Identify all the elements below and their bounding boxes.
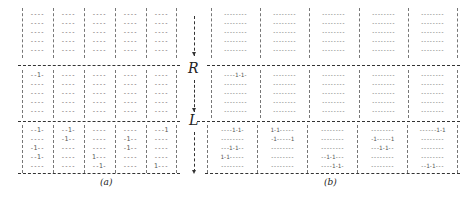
cell: ---- — [86, 71, 112, 80]
divider — [211, 8, 212, 58]
cell: ---- — [86, 144, 112, 153]
column: ---- ---- ---- ---- ---- — [86, 8, 112, 58]
section-separator — [197, 121, 460, 122]
column: -------- -------- -------- -------- ----… — [361, 8, 405, 58]
panel-b: -------- -------- -------- -------- ----… — [207, 8, 460, 168]
cell: --1- — [24, 126, 50, 135]
cell: -------- — [410, 89, 454, 98]
section-separator — [207, 65, 460, 66]
cell: ---1 — [148, 126, 174, 135]
column: --1- ---- -1-- --1- ---- — [24, 125, 50, 173]
section-separator — [18, 65, 180, 66]
cell: ---- — [148, 37, 174, 46]
divider — [115, 125, 116, 173]
cell: -1-- — [117, 135, 143, 144]
cell: -------- — [213, 107, 257, 116]
column: ---- ---- ---- ---- ---- — [117, 70, 143, 118]
panel-a-l-section: --1- ---- -1-- --1- ---- --1- -1-- ---- … — [20, 125, 178, 173]
panel-a-r-section: --1- ---- ---- ---- ---- ---- ---- ---- … — [20, 70, 178, 118]
cell: ---- — [117, 80, 143, 89]
cell: ---- — [24, 10, 50, 19]
cell: -------- — [410, 10, 454, 19]
cell: ---- — [24, 98, 50, 107]
cell: ---- — [117, 46, 143, 55]
cell: 1-1----- — [209, 153, 255, 162]
cell: --1-1--- — [309, 153, 355, 162]
cell: -------- — [311, 107, 355, 116]
cell: ---- — [55, 80, 81, 89]
cell: ---- — [86, 10, 112, 19]
cell: --1- — [24, 153, 50, 162]
column: -------- -------- -------- -------- ----… — [213, 8, 257, 58]
cell: -------- — [359, 162, 405, 171]
divider — [408, 70, 409, 118]
cell: ---- — [55, 46, 81, 55]
cell: -------- — [262, 89, 306, 98]
divider — [457, 125, 458, 173]
column: -------- -------- -------- --1-1--- ----… — [309, 125, 355, 173]
cell: -------- — [209, 162, 255, 171]
panel-b-l-section: ----1-1- -------- ---1-1-- 1-1----- ----… — [207, 125, 460, 173]
cell: -------- — [410, 98, 454, 107]
panel-a-caption: (a) — [100, 177, 112, 187]
divider — [146, 125, 147, 173]
arrow-down-icon — [192, 52, 196, 56]
cell: -------- — [311, 10, 355, 19]
cell: -------- — [361, 98, 405, 107]
divider — [407, 125, 408, 173]
cell: ---- — [148, 80, 174, 89]
divider — [357, 125, 358, 173]
cell: ---- — [55, 89, 81, 98]
cell: ---- — [86, 19, 112, 28]
cell: -------- — [409, 135, 455, 144]
cell: -------- — [213, 37, 257, 46]
column: -------- -------- -------- -------- ----… — [311, 70, 355, 118]
column: ---- ---- ---- ---- ---- — [117, 8, 143, 58]
column: ---- ---- ---- ---- ---- — [86, 70, 112, 118]
column: --1- ---- ---- ---- ---- — [24, 70, 50, 118]
divider — [115, 8, 116, 58]
panel-a-top-section: ---- ---- ---- ---- ---- ---- ---- ---- … — [20, 8, 178, 58]
cell: -------- — [311, 80, 355, 89]
section-separator — [18, 173, 180, 174]
column: -------- -------- -------- -------- ----… — [410, 8, 454, 58]
cell: -------- — [262, 71, 306, 80]
divider — [146, 70, 147, 118]
cell: -------- — [361, 107, 405, 116]
cell: ---- — [86, 89, 112, 98]
cell: -------- — [262, 10, 306, 19]
column: ---- -1-- -1-- ---- ---- — [117, 125, 143, 173]
label-l: L — [189, 112, 198, 128]
column: ---1 ---- ---- ---- 1--- — [148, 125, 174, 173]
divider — [309, 8, 310, 58]
cell: -1-- — [117, 144, 143, 153]
column: ---- ---- ---- ---- ---- — [148, 70, 174, 118]
cell: ---- — [117, 89, 143, 98]
label-r: R — [188, 60, 199, 76]
cell: -------- — [311, 19, 355, 28]
cell: -------- — [410, 107, 454, 116]
cell: ---- — [86, 80, 112, 89]
cell: -------- — [213, 19, 257, 28]
cell: -------- — [311, 98, 355, 107]
cell: -------- — [361, 19, 405, 28]
cell: ---- — [24, 162, 50, 171]
cell: -------- — [361, 37, 405, 46]
cell: ----1-1- — [213, 71, 257, 80]
cell: -------- — [409, 144, 455, 153]
cell: -------- — [262, 46, 306, 55]
cell: -------- — [311, 37, 355, 46]
column: -------- -------- -------- -------- ----… — [361, 70, 405, 118]
cell: 1--- — [148, 162, 174, 171]
cell: ---- — [55, 10, 81, 19]
divider — [309, 70, 310, 118]
cell: ---- — [117, 28, 143, 37]
cell: ----1-1- — [209, 126, 255, 135]
cell: ----1-1- — [309, 162, 355, 171]
cell: -------- — [213, 89, 257, 98]
cell: -------- — [262, 107, 306, 116]
cell: ---- — [86, 98, 112, 107]
cell: ---1-1-- — [209, 144, 255, 153]
cell: ---- — [24, 80, 50, 89]
column: -------- -------- -------- -------- ----… — [410, 70, 454, 118]
